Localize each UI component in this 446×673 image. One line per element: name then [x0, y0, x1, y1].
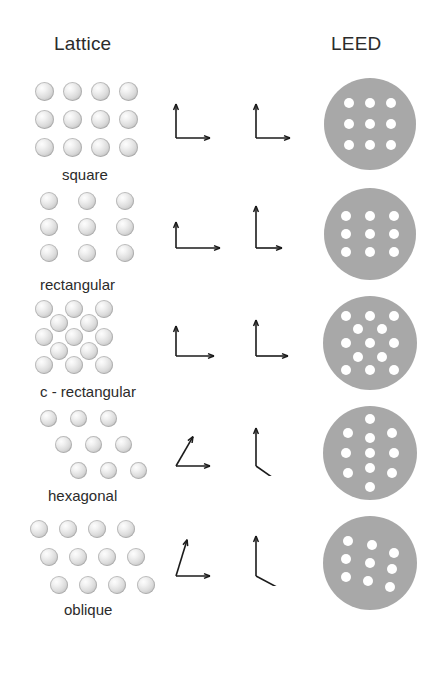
reciprocal-basis-vectors-b2-shaft: [256, 576, 291, 586]
lattice-atom: [35, 300, 53, 318]
leed-spot: [344, 140, 354, 150]
leed-spot: [389, 211, 399, 221]
lattice-label-c-rectangular: c - rectangular: [40, 383, 136, 400]
lattice-diagram: [35, 82, 185, 168]
lattice-label-hexagonal: hexagonal: [48, 487, 117, 504]
lattice-atom: [116, 244, 134, 262]
leed-spot: [341, 572, 351, 582]
real-space-basis-vectors: [168, 524, 240, 586]
lattice-atom: [63, 138, 82, 157]
lattice-atom: [95, 300, 113, 318]
lattice-atom: [63, 82, 82, 101]
reciprocal-basis-vectors: [248, 86, 320, 148]
lattice-atom: [65, 356, 83, 374]
real-space-basis-vectors: [168, 414, 240, 476]
leed-spot: [365, 558, 375, 568]
leed-spot: [389, 338, 399, 348]
leed-spot: [344, 119, 354, 129]
lattice-atom: [88, 520, 106, 538]
column-header-leed: LEED: [331, 33, 381, 55]
leed-spot: [365, 365, 375, 375]
lattice-atom: [70, 410, 87, 427]
leed-pattern-disk: [323, 406, 417, 500]
lattice-atom: [137, 576, 155, 594]
leed-spot: [365, 414, 375, 424]
leed-spot: [389, 311, 399, 321]
real-space-basis-vectors: [168, 86, 240, 148]
leed-pattern-disk: [324, 188, 416, 280]
leed-spot: [365, 311, 375, 321]
reciprocal-basis-vectors: [248, 304, 320, 366]
leed-spot: [365, 211, 375, 221]
leed-spot: [389, 548, 399, 558]
figure-caption: [44, 660, 414, 673]
leed-pattern-disk: [323, 516, 417, 610]
lattice-atom: [127, 548, 145, 566]
leed-spot: [365, 338, 375, 348]
leed-spot: [377, 352, 387, 362]
lattice-atom: [35, 110, 54, 129]
leed-spot: [386, 98, 396, 108]
leed-spot: [365, 98, 375, 108]
lattice-atom-centered: [80, 342, 98, 360]
leed-spot: [341, 211, 351, 221]
leed-spot: [353, 352, 363, 362]
lattice-atom: [108, 576, 126, 594]
lattice-atom: [55, 436, 72, 453]
leed-spot: [341, 247, 351, 257]
lattice-atom: [35, 328, 53, 346]
lattice-atom: [95, 356, 113, 374]
leed-pattern-disk: [323, 296, 417, 390]
reciprocal-basis-vectors: [248, 414, 320, 476]
lattice-atom: [65, 300, 83, 318]
lattice-atom: [35, 138, 54, 157]
lattice-atom: [35, 356, 53, 374]
lattice-atom: [78, 218, 96, 236]
lattice-atom: [65, 328, 83, 346]
leed-spot: [386, 140, 396, 150]
lattice-atom: [119, 82, 138, 101]
leed-spot: [341, 338, 351, 348]
real-space-basis-vectors: [168, 196, 240, 258]
column-header-lattice: Lattice: [54, 33, 111, 55]
lattice-atom-centered: [50, 314, 68, 332]
lattice-label-rectangular: rectangular: [40, 276, 115, 293]
lattice-atom: [130, 462, 147, 479]
lattice-diagram: [35, 300, 185, 386]
leed-spot: [365, 448, 375, 458]
lattice-label-oblique: oblique: [64, 601, 112, 618]
leed-spot: [365, 119, 375, 129]
leed-spot: [365, 482, 375, 492]
real-space-basis-vectors-a1-head-1: [187, 540, 188, 546]
lattice-atom-centered: [50, 342, 68, 360]
leed-spot: [387, 428, 397, 438]
leed-spot: [377, 324, 387, 334]
lattice-atom: [119, 138, 138, 157]
lattice-atom: [95, 328, 113, 346]
real-space-basis-vectors: [168, 304, 240, 366]
leed-spot: [387, 564, 397, 574]
real-space-basis-vectors-a1-shaft: [176, 540, 187, 576]
leed-spot: [353, 324, 363, 334]
lattice-atom: [115, 436, 132, 453]
reciprocal-basis-vectors-b2-shaft: [256, 466, 287, 476]
lattice-atom: [35, 82, 54, 101]
leed-spot: [343, 428, 353, 438]
leed-spot: [341, 448, 351, 458]
lattice-atom: [117, 520, 135, 538]
reciprocal-basis-vectors: [248, 524, 320, 586]
leed-spot: [344, 98, 354, 108]
lattice-atom: [63, 110, 82, 129]
lattice-atom: [50, 576, 68, 594]
leed-spot: [389, 448, 399, 458]
leed-spot: [385, 582, 395, 592]
figure-lattice-leed: Lattice LEED squarerectangularc - rectan…: [0, 0, 446, 673]
lattice-atom: [30, 520, 48, 538]
real-space-basis-vectors-a1-shaft: [176, 437, 193, 466]
lattice-atom: [91, 110, 110, 129]
leed-spot: [365, 247, 375, 257]
lattice-atom: [119, 110, 138, 129]
reciprocal-basis-vectors: [248, 196, 320, 258]
lattice-atom: [78, 192, 96, 210]
lattice-atom: [116, 192, 134, 210]
